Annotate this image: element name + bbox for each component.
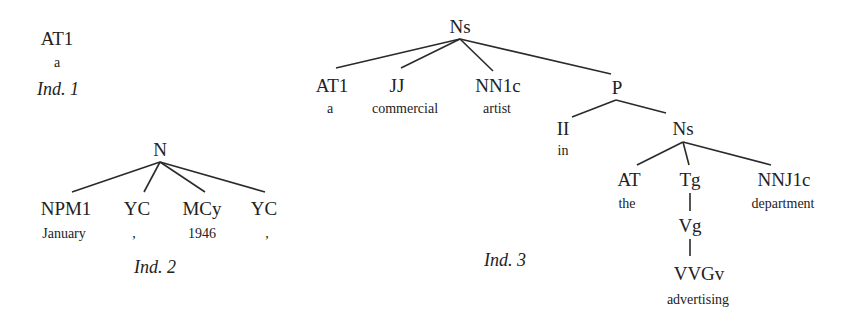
word-a: a (327, 101, 333, 117)
word-comma-1: , (132, 226, 136, 242)
word-january: January (42, 226, 86, 242)
node-vvgv: VVGv (674, 263, 725, 285)
caption-ind1: Ind. 1 (37, 79, 79, 100)
node-yc-2: YC (251, 198, 277, 220)
node-tg: Tg (679, 169, 700, 191)
word-artist: artist (483, 101, 511, 117)
node-at1-ind1: AT1 (41, 28, 74, 50)
word-comma-2: , (265, 226, 269, 242)
node-ns-root: Ns (449, 16, 470, 38)
node-p: P (612, 77, 623, 99)
word-1946: 1946 (188, 226, 216, 242)
node-npm1: NPM1 (41, 198, 92, 220)
node-at: AT (617, 169, 640, 191)
node-ii: II (557, 118, 570, 140)
word-a-ind1: a (54, 55, 60, 71)
word-advertising: advertising (667, 292, 729, 308)
node-mcy: MCy (182, 198, 221, 220)
node-jj: JJ (390, 75, 405, 97)
node-vg: Vg (678, 215, 701, 237)
node-n-root: N (153, 139, 167, 161)
word-department: department (752, 196, 815, 212)
node-nnj1c: NNJ1c (758, 169, 811, 191)
word-the: the (618, 196, 635, 212)
word-in: in (558, 143, 569, 159)
node-ns-inner: Ns (672, 118, 693, 140)
caption-ind2: Ind. 2 (134, 257, 176, 278)
word-commercial: commercial (372, 101, 438, 117)
node-at1: AT1 (316, 75, 349, 97)
caption-ind3: Ind. 3 (484, 250, 526, 271)
node-nn1c: NN1c (475, 75, 520, 97)
node-yc-1: YC (124, 198, 150, 220)
